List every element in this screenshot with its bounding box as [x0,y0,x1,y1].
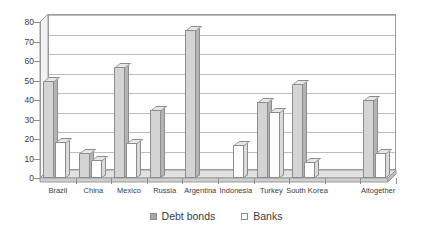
bar-front-face [375,153,386,178]
bar-top-face [363,96,380,101]
bar-debt-bonds [79,153,90,178]
bar-side-face [137,140,141,178]
legend-swatch-icon [241,213,248,220]
bar-group [150,22,186,178]
y-tick-label: 20 [0,134,34,144]
bar-series-layer [40,22,396,178]
bar-side-face [280,109,284,178]
bar-front-face [79,153,90,178]
bar-banks [304,162,315,178]
x-tick [76,178,77,184]
y-tick-label: 40 [0,95,34,105]
bar-debt-bonds [257,102,268,178]
bar-side-face [196,27,200,178]
legend-swatch-icon [150,213,157,220]
bar-front-face [363,100,374,178]
x-tick-label: Altogether [361,186,395,195]
bar-front-face [150,110,161,178]
bar-front-face [185,30,196,178]
bar-front-face [292,84,303,178]
x-tick [289,178,290,184]
y-tick-label: 0 [0,173,34,183]
y-tick-label: 10 [0,154,34,164]
bar-group [43,22,79,178]
x-tick-label: Brazil [48,186,67,195]
legend-item-debt-bonds: Debt bonds [150,210,216,222]
x-tick [147,178,148,184]
chart-legend: Debt bonds Banks [0,210,432,222]
legend-item-banks: Banks [241,210,282,222]
bar-group [292,22,328,178]
bar-banks [55,142,66,178]
bar-debt-bonds [185,30,196,178]
y-tick [34,178,40,179]
bar-front-face [257,102,268,178]
legend-label: Debt bonds [162,210,216,222]
bar-group [363,22,399,178]
x-tick [111,178,112,184]
bar-front-face [233,145,244,178]
bar-front-face [304,162,315,178]
y-tick-label: 50 [0,76,34,86]
x-tick [218,178,219,184]
bar-banks [233,145,244,178]
bar-side-face [66,139,70,178]
bar-top-face [375,149,392,154]
bar-group [79,22,115,178]
bar-top-face [185,26,202,31]
x-tick-label: Indonesia [220,186,253,195]
x-tick-label: Mexico [117,186,141,195]
bar-debt-bonds [114,67,125,178]
bar-debt-bonds [363,100,374,178]
bar-debt-bonds [292,84,303,178]
x-axis-labels: BrazilChinaMexicoRussiaArgentinaIndonesi… [0,186,432,202]
bar-side-face [161,107,165,178]
y-tick-label: 80 [0,17,34,27]
x-tick [254,178,255,184]
x-tick-label: South Korea [286,186,328,195]
bar-debt-bonds [150,110,161,178]
bar-front-face [91,160,102,178]
bar-banks [375,153,386,178]
bar-side-face [386,150,390,178]
bar-side-face [244,142,248,178]
bar-banks [126,143,137,178]
bar-banks [91,160,102,178]
x-tick-label: China [84,186,104,195]
bar-front-face [126,143,137,178]
bar-chart: 80 70 60 50 40 30 20 10 0 BrazilChinaMex… [0,0,432,240]
y-tick-label: 30 [0,115,34,125]
bar-debt-bonds [43,81,54,179]
bar-group [114,22,150,178]
x-tick [396,178,397,184]
y-tick-label: 60 [0,56,34,66]
x-tick-label: Russia [153,186,176,195]
x-tick-label: Turkey [260,186,283,195]
bar-front-face [114,67,125,178]
y-axis-labels: 80 70 60 50 40 30 20 10 0 [0,22,34,178]
bar-front-face [43,81,54,179]
bar-front-face [55,142,66,178]
bar-group [221,22,257,178]
bar-group [257,22,293,178]
gridline [49,15,395,16]
bar-group [328,22,364,178]
x-tick [182,178,183,184]
bar-front-face [269,112,280,178]
y-tick-label: 70 [0,37,34,47]
x-tick-label: Argentina [184,186,216,195]
x-tick [325,178,326,184]
x-tick [360,178,361,184]
legend-label: Banks [253,210,282,222]
bar-banks [269,112,280,178]
bar-group [185,22,221,178]
